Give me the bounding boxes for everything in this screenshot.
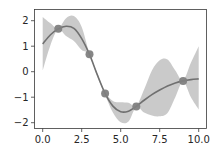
y-axis-ticks: 210−1−2 (14, 15, 35, 128)
y-tick-label: −1 (14, 92, 29, 103)
x-tick-label: 10.0 (188, 134, 210, 145)
mean-line (43, 26, 199, 112)
x-tick-label: 0.0 (35, 134, 51, 145)
observation-point (54, 25, 62, 33)
gp-regression-chart: 0.02.55.07.510.0 210−1−2 (0, 0, 223, 156)
observation-point (86, 50, 94, 58)
mean-prediction-line (43, 26, 199, 112)
y-tick-label: 1 (22, 41, 28, 52)
observation-point (101, 89, 109, 97)
observation-point (179, 77, 187, 85)
y-tick-label: 0 (22, 66, 28, 77)
x-axis-ticks: 0.02.55.07.510.0 (35, 129, 210, 145)
x-tick-label: 5.0 (113, 134, 129, 145)
x-tick-label: 7.5 (152, 134, 168, 145)
confidence-band (43, 16, 199, 124)
x-tick-label: 2.5 (74, 134, 90, 145)
y-tick-label: 2 (22, 15, 28, 26)
y-tick-label: −2 (14, 117, 29, 128)
observation-point (132, 102, 140, 110)
confidence-interval-area (43, 16, 199, 124)
